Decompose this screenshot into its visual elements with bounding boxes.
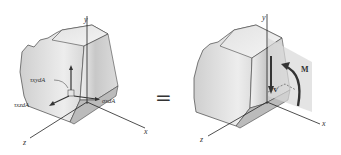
right-x-axis-label: x (321, 119, 326, 128)
stress-resultant-diagram: y x z τxydA τxzdA σxdA = y x z V M (0, 0, 341, 155)
shear-force-label: V (273, 86, 278, 94)
right-y-axis-label: y (261, 13, 266, 22)
equals-sign: = (155, 85, 172, 109)
right-body-diagram: y x z V M (194, 13, 326, 144)
right-z-axis-label: z (199, 135, 204, 144)
left-body-diagram: y x z τxydA τxzdA σxdA (14, 15, 148, 147)
left-x-axis (87, 102, 145, 128)
left-x-axis-label: x (143, 127, 148, 136)
left-z-axis-label: z (22, 138, 27, 147)
right-x-axis (267, 102, 320, 124)
moment-label: M (301, 65, 309, 74)
sigma-x-label: σxdA (102, 97, 115, 104)
tau-xy-label: τxydA (30, 76, 45, 83)
left-y-axis-label: y (83, 15, 88, 24)
tau-xz-label: τxzdA (14, 101, 29, 108)
